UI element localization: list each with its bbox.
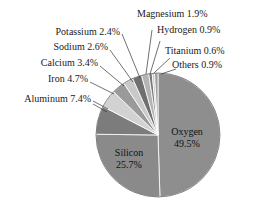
leader-line-potassium <box>122 34 140 78</box>
slice-label-silicon: Silicon 25.7% <box>100 147 158 170</box>
slice-label-titanium: Titanium 0.6% <box>165 45 225 56</box>
slice-label-magnesium: Magnesium 1.9% <box>137 8 208 19</box>
pie-chart-figure: Magnesium 1.9% Hydrogen 0.9% Titanium 0.… <box>0 0 254 208</box>
leader-line-titanium <box>154 58 170 73</box>
leader-line-magnesium <box>146 30 152 74</box>
slice-label-iron: Iron 4.7% <box>20 73 88 84</box>
slice-label-oxygen-value: 49.5% <box>156 138 218 150</box>
leader-line-calcium <box>100 66 124 86</box>
slice-label-potassium: Potassium 2.4% <box>34 26 120 37</box>
leader-line-iron <box>90 82 114 94</box>
slice-label-aluminum: Aluminum 7.4% <box>4 93 91 104</box>
slice-label-others: Others 0.9% <box>172 59 222 70</box>
slice-label-silicon-value: 25.7% <box>100 159 158 171</box>
slice-label-sodium: Sodium 2.6% <box>30 41 108 52</box>
slice-label-calcium: Calcium 3.4% <box>20 57 98 68</box>
slice-label-hydrogen: Hydrogen 0.9% <box>157 24 220 35</box>
slice-label-silicon-name: Silicon <box>100 147 158 159</box>
slice-label-oxygen-name: Oxygen <box>156 126 218 138</box>
slice-label-oxygen: Oxygen 49.5% <box>156 126 218 149</box>
